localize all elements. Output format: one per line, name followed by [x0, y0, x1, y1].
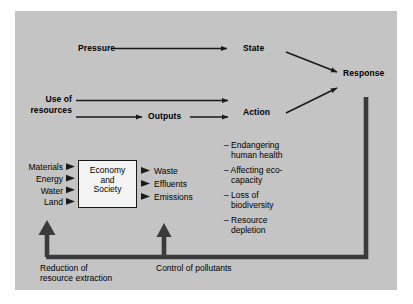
label-outputs: Outputs [148, 112, 181, 121]
label-use-of-resources-line2: resources [12, 106, 72, 115]
label-use-of-resources-line1: Use of [18, 95, 72, 104]
diagram-vector-layer [0, 0, 413, 304]
economy-and-society-label: Economy and Society [78, 166, 137, 195]
caption-control-of-pollutants: Control of pollutants [156, 264, 232, 273]
input-materials: Materials [5, 162, 63, 172]
output-waste: Waste [154, 166, 178, 176]
econ-line-3: Society [78, 185, 137, 195]
diagram-canvas: Pressure State Response Use of resources… [0, 0, 413, 304]
label-action: Action [243, 108, 270, 117]
impact-item-2-line1: – Affecting eco- [224, 166, 282, 175]
impact-item-1-line1: – Endangering [224, 141, 279, 150]
input-arrowheads [66, 163, 75, 205]
label-response: Response [343, 69, 384, 78]
impact-item-2-line2: capacity [231, 176, 262, 185]
output-emissions: Emissions [154, 192, 193, 202]
impact-item-1-line2: human health [231, 151, 283, 160]
input-land: Land [5, 197, 63, 207]
impact-item-4-line2: depletion [231, 226, 266, 235]
input-water: Water [5, 186, 63, 196]
impact-item-3-line1: – Loss of [224, 191, 259, 200]
caption-reduction-line1: Reduction of [40, 264, 88, 273]
impact-item-4-line1: – Resource [224, 216, 267, 225]
label-state: State [243, 44, 264, 53]
caption-reduction-line2: resource extraction [40, 274, 112, 283]
arrow-reduction-of-resource-extraction [39, 220, 56, 257]
arrow-control-of-pollutants [157, 223, 172, 257]
label-pressure: Pressure [78, 44, 115, 53]
output-arrowheads [141, 167, 150, 200]
arrow-state-to-response [286, 52, 337, 72]
impact-item-3-line2: biodiversity [231, 201, 274, 210]
output-effluents: Effluents [154, 179, 187, 189]
arrow-action-to-response [286, 88, 337, 113]
input-energy: Energy [5, 174, 63, 184]
